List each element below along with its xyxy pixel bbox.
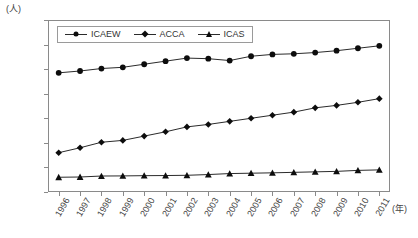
legend-label-icas: ICAS — [224, 29, 245, 39]
x-axis-tick-label: 1999 — [117, 196, 136, 218]
x-axis-tick-label: 2005 — [245, 196, 264, 218]
x-axis-tick-mark — [272, 192, 273, 196]
x-axis-tick-mark — [251, 192, 252, 196]
x-axis-tick-mark — [337, 192, 338, 196]
x-axis-tick-mark — [294, 192, 295, 196]
x-axis-tick-label: 1997 — [74, 196, 93, 218]
x-axis-tick-mark — [315, 192, 316, 196]
y-axis: 020000400006000080000100000120000140000 — [0, 0, 48, 238]
x-axis-tick-mark — [187, 192, 188, 196]
x-axis-tick-label: 2000 — [138, 196, 157, 218]
legend-marker-circle-icon — [65, 30, 87, 39]
x-axis-tick-mark — [144, 192, 145, 196]
x-axis-tick-label: 2011 — [374, 196, 392, 218]
x-axis-tick-label: 2006 — [266, 196, 285, 218]
x-axis-tick-label: 2002 — [181, 196, 200, 218]
legend-item-icas: ICAS — [198, 29, 245, 39]
y-axis-tick-mark — [44, 167, 48, 168]
legend-item-acca: ACCA — [134, 29, 185, 39]
x-axis-tick-label: 2004 — [224, 196, 243, 218]
x-axis-tick-mark — [59, 192, 60, 196]
x-axis-tick-mark — [166, 192, 167, 196]
x-axis-tick-label: 2003 — [202, 196, 221, 218]
x-axis-tick-mark — [123, 192, 124, 196]
legend-marker-diamond-icon — [134, 30, 156, 39]
x-axis-tick-mark — [101, 192, 102, 196]
legend-label-acca: ACCA — [160, 29, 185, 39]
y-axis-tick-mark — [44, 20, 48, 21]
x-axis-tick-mark — [358, 192, 359, 196]
x-axis-tick-mark — [80, 192, 81, 196]
x-axis-tick-label: 1996 — [53, 196, 72, 218]
legend-marker-triangle-icon — [198, 30, 220, 39]
chart-legend: ICAEW ACCA ICAS — [57, 26, 253, 43]
y-axis-tick-mark — [44, 45, 48, 46]
y-axis-tick-mark — [44, 192, 48, 193]
x-axis-tick-label: 1998 — [95, 196, 114, 218]
x-axis-unit-label: (年) — [392, 204, 407, 214]
x-axis-tick-label: 2009 — [331, 196, 350, 218]
x-axis-tick-label: 2010 — [352, 196, 371, 218]
x-axis-tick-mark — [208, 192, 209, 196]
y-axis-tick-mark — [44, 118, 48, 119]
x-axis-tick-label: 2001 — [160, 196, 179, 218]
plot-area — [48, 20, 390, 192]
x-axis-tick-label: 2008 — [309, 196, 328, 218]
line-chart: (人) 020000400006000080000100000120000140… — [0, 0, 418, 238]
legend-label-icaew: ICAEW — [91, 29, 121, 39]
y-axis-tick-mark — [44, 143, 48, 144]
legend-item-icaew: ICAEW — [65, 29, 121, 39]
y-axis-tick-mark — [44, 94, 48, 95]
x-axis-tick-mark — [230, 192, 231, 196]
x-axis-tick-label: 2007 — [288, 196, 307, 218]
x-axis-tick-mark — [379, 192, 380, 196]
y-axis-tick-mark — [44, 69, 48, 70]
